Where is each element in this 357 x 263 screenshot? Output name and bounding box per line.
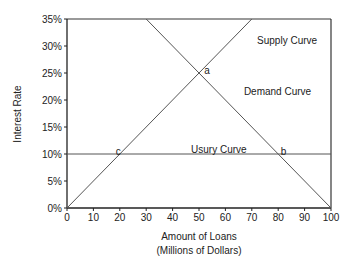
y-tick-label: 15% xyxy=(42,122,62,133)
data-series xyxy=(67,19,331,208)
x-tick-label: 70 xyxy=(246,212,258,223)
point-label-b: b xyxy=(281,146,287,157)
y-tick-label: 30% xyxy=(42,41,62,52)
x-tick-label: 40 xyxy=(167,212,179,223)
demand-curve-line xyxy=(146,19,331,208)
y-tick-label: 5% xyxy=(48,176,63,187)
y-axis-title: Interest Rate xyxy=(12,85,23,143)
supply-curve-line xyxy=(67,19,252,208)
supply-curve-label: Supply Curve xyxy=(257,35,317,46)
x-tick-label: 20 xyxy=(114,212,126,223)
x-axis-subtitle: (Millions of Dollars) xyxy=(156,245,241,256)
x-tick-label: 50 xyxy=(193,212,205,223)
y-axis-ticks: 0%5%10%15%20%25%30%35% xyxy=(42,14,67,214)
annotations: Supply CurveDemand CurveUsury Curveabc xyxy=(116,35,318,157)
point-label-a: a xyxy=(204,65,210,76)
y-tick-label: 10% xyxy=(42,149,62,160)
x-axis-ticks: 0102030405060708090100 xyxy=(64,208,340,223)
x-tick-label: 90 xyxy=(299,212,311,223)
x-tick-label: 60 xyxy=(220,212,232,223)
y-tick-label: 25% xyxy=(42,68,62,79)
x-tick-label: 80 xyxy=(273,212,285,223)
y-tick-label: 20% xyxy=(42,95,62,106)
supply-demand-chart: 0%5%10%15%20%25%30%35% 01020304050607080… xyxy=(0,0,357,263)
demand-curve-label: Demand Curve xyxy=(244,86,312,97)
y-tick-label: 0% xyxy=(48,203,63,214)
x-tick-label: 100 xyxy=(323,212,340,223)
x-tick-label: 30 xyxy=(141,212,153,223)
usury-curve-label: Usury Curve xyxy=(191,144,247,155)
y-tick-label: 35% xyxy=(42,14,62,25)
x-axis-title: Amount of Loans xyxy=(161,231,237,242)
x-tick-label: 0 xyxy=(64,212,70,223)
x-tick-label: 10 xyxy=(88,212,100,223)
point-label-c: c xyxy=(116,146,121,157)
plot-frame xyxy=(67,19,331,208)
